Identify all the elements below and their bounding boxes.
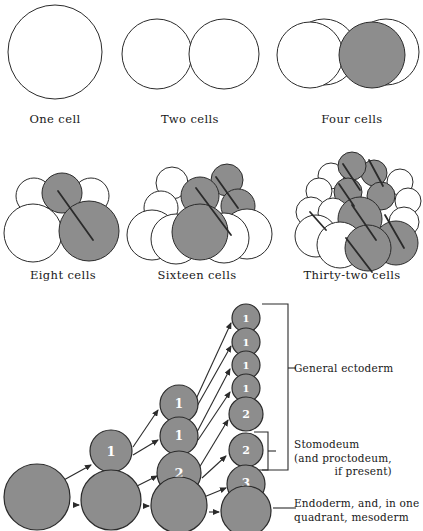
clear-blastomere (189, 19, 259, 89)
lineage-cell-unlabeled (4, 464, 70, 530)
lineage-cell-number: 1 (243, 313, 250, 324)
lineage-cell-unlabeled (221, 486, 271, 531)
lineage-cell-number: 2 (242, 444, 250, 457)
lineage-cell-number: 1 (106, 444, 115, 459)
fate-label-endoderm: Endoderm, and, in onequadrant, mesoderm (294, 497, 419, 524)
lineage-cell-number: 1 (243, 337, 250, 348)
stage-label-sixteen-cells: Sixteen cells (117, 268, 277, 282)
lineage-cell-number: 1 (243, 383, 250, 394)
shaded-blastomere (59, 201, 119, 261)
lineage-cell-number: 2 (242, 408, 250, 421)
lineage-cell-unlabeled (151, 477, 207, 531)
fate-label-line: General ectoderm (294, 362, 393, 376)
lineage-cell-number: 1 (175, 429, 183, 443)
fate-label-line: (and proctodeum, (294, 452, 392, 466)
stage-label-two-cells: Two cells (110, 112, 270, 126)
lineage-cell-number: 1 (175, 397, 183, 411)
lineage-cell-unlabeled (81, 470, 141, 530)
cleavage-stage-one-cell (8, 5, 102, 99)
fate-label-line: Endoderm, and, in one (294, 497, 419, 511)
stage-label-four-cells: Four cells (272, 112, 423, 126)
shaded-blastomere (339, 22, 405, 88)
lineage-cell-number: 1 (243, 360, 250, 371)
clear-blastomere (277, 22, 343, 88)
stage-label-thirty-two-cells: Thirty-two cells (272, 268, 423, 282)
lineage-col-1-one-cell (4, 464, 70, 530)
clear-blastomere (8, 5, 102, 99)
clear-blastomere (122, 19, 192, 89)
shaded-blastomere (345, 225, 391, 271)
fate-label-general-ectoderm: General ectoderm (294, 362, 393, 376)
cleavage-stage-four-cells (277, 19, 419, 88)
fate-label-line: Stomodeum (294, 438, 392, 452)
fate-label-line: if present) (294, 465, 392, 479)
shaded-blastomere (172, 204, 228, 260)
fate-label-stomodeum: Stomodeum(and proctodeum,if present) (294, 438, 392, 479)
shaded-blastomere (338, 152, 366, 180)
fate-label-line: quadrant, mesoderm (294, 511, 419, 525)
clear-blastomere (4, 204, 62, 262)
